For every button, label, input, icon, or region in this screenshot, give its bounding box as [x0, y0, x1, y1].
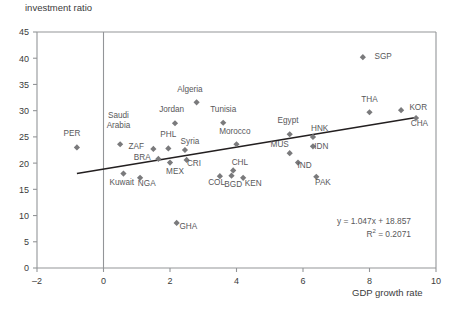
data-point-label: Morocco	[219, 127, 251, 136]
svg-text:45: 45	[19, 27, 29, 37]
data-point: MUS	[271, 140, 293, 156]
data-point-label: CRI	[187, 159, 201, 168]
data-point-label: PER	[63, 129, 80, 138]
data-point: COL	[208, 173, 225, 186]
data-point-label: COL	[208, 178, 225, 187]
data-point-label: CHL	[232, 158, 249, 167]
svg-text:4: 4	[234, 276, 239, 286]
data-point-label: PAK	[315, 178, 331, 187]
data-point-label: GHA	[179, 222, 197, 231]
svg-text:2: 2	[167, 276, 172, 286]
svg-text:6: 6	[300, 276, 305, 286]
svg-text:40: 40	[19, 54, 29, 64]
data-point-label: Arabia	[107, 121, 131, 130]
data-point: ZAF	[129, 142, 157, 152]
data-point: IDN	[310, 142, 329, 151]
svg-text:5: 5	[24, 237, 29, 247]
data-point-label: Jordan	[159, 105, 184, 114]
svg-text:35: 35	[19, 80, 29, 90]
data-point: THA	[361, 95, 378, 115]
data-point: CHL	[230, 158, 248, 173]
data-point-label: BRA	[134, 153, 151, 162]
data-point: CRI	[184, 157, 201, 168]
data-point: NGA	[137, 175, 156, 188]
data-point: GHA	[174, 220, 198, 231]
data-point: MEX	[166, 159, 184, 175]
data-point-label: KEN	[245, 179, 262, 188]
scatter-plot-svg: 051015202530354045–20246810 PERSaudiArab…	[0, 0, 461, 313]
svg-text:0: 0	[101, 276, 106, 286]
data-point: Morocco	[219, 127, 251, 147]
data-point-label: Algeria	[177, 85, 203, 94]
tick-marks-and-labels: 051015202530354045–20246810	[19, 27, 441, 286]
regression-equation-text: y = 1.047x + 18.857	[337, 216, 411, 226]
data-point: SGP	[360, 52, 393, 61]
data-point: Egypt	[278, 116, 300, 138]
data-point-label: MEX	[166, 167, 184, 176]
svg-text:15: 15	[19, 185, 29, 195]
data-point: PER	[63, 129, 80, 151]
data-point-label: BGD	[224, 180, 242, 189]
data-point: BGD	[224, 173, 242, 190]
data-point-label: Kuwait	[109, 178, 134, 187]
data-point-label: HNK	[311, 124, 329, 133]
data-point: SaudiArabia	[107, 111, 131, 147]
data-point-label: CHA	[411, 119, 429, 128]
data-point-label: MUS	[271, 140, 290, 149]
data-point-label: Tunisia	[210, 105, 237, 114]
data-point: Jordan	[159, 105, 184, 126]
data-point-label: IDN	[314, 142, 328, 151]
svg-text:25: 25	[19, 132, 29, 142]
svg-text:0: 0	[24, 263, 29, 273]
svg-text:8: 8	[367, 276, 372, 286]
svg-text:–2: –2	[32, 276, 42, 286]
data-point-label: ZAF	[129, 142, 144, 151]
svg-text:10: 10	[431, 276, 441, 286]
svg-text:10: 10	[19, 211, 29, 221]
data-points-group: PERSaudiArabiaKuwaitNGAZAFBRAPHLMEXJorda…	[63, 52, 428, 231]
data-point: PAK	[313, 174, 331, 187]
data-point-label: IND	[298, 161, 312, 170]
data-point: KEN	[240, 175, 262, 188]
data-point-label: THA	[361, 95, 378, 104]
svg-text:30: 30	[19, 106, 29, 116]
regression-equation-annotation: y = 1.047x + 18.857R2 = 0.2071	[337, 216, 411, 239]
r-squared-text: R2 = 0.2071	[366, 228, 411, 239]
data-point: BRA	[134, 153, 162, 162]
data-point: Tunisia	[210, 105, 237, 126]
data-point-label: SGP	[374, 52, 392, 61]
data-point: Algeria	[177, 85, 203, 105]
data-point-label: NGA	[138, 179, 156, 188]
data-point: Syria	[181, 137, 200, 153]
data-point-label: KOR	[409, 103, 427, 112]
data-point: CHA	[411, 115, 429, 128]
x-axis-title: GDP growth rate	[352, 287, 423, 298]
svg-text:20: 20	[19, 159, 29, 169]
data-point-label: Saudi	[108, 111, 129, 120]
data-point-label: PHL	[160, 130, 176, 139]
data-point-label: Syria	[181, 137, 200, 146]
data-point: PHL	[160, 130, 176, 151]
chart-figure: investment ratio 051015202530354045–2024…	[0, 0, 461, 313]
data-point: IND	[295, 159, 312, 169]
data-point: HNK	[310, 124, 329, 140]
data-point: Kuwait	[109, 171, 134, 188]
data-point-label: Egypt	[278, 116, 300, 125]
data-point: KOR	[398, 103, 427, 113]
